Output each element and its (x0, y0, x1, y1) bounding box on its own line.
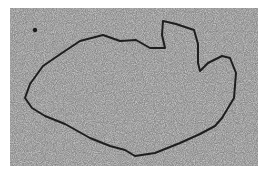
grain-texture (10, 8, 258, 166)
micrograph (10, 8, 258, 166)
micrograph-canvas (10, 8, 258, 166)
dark-particle (33, 28, 37, 32)
